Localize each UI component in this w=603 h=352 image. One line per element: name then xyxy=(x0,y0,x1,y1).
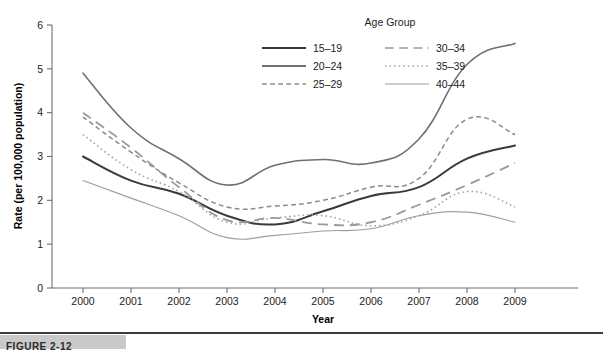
y-tick-label: 1 xyxy=(37,238,43,250)
x-tick-label: 2008 xyxy=(455,295,479,307)
y-tick-label: 6 xyxy=(37,19,43,31)
legend-label-35-39: 35–39 xyxy=(436,60,465,72)
y-tick-label: 0 xyxy=(37,282,43,294)
x-tick-label: 2009 xyxy=(503,295,527,307)
y-tick-label: 5 xyxy=(37,63,43,75)
legend-label-15-19: 15–19 xyxy=(313,42,342,54)
y-axis-title: Rate (per 100,000 population) xyxy=(12,83,24,229)
figure-caption-label: FIGURE 2-12 xyxy=(6,341,72,352)
y-axis: 0123456 xyxy=(37,19,52,294)
x-tick-label: 2004 xyxy=(263,295,287,307)
line-chart: 0123456 20002001200220032004200520062007… xyxy=(0,0,603,330)
y-tick-label: 3 xyxy=(37,150,43,162)
series-line-40-44 xyxy=(83,181,515,240)
legend-label-25-29: 25–29 xyxy=(313,78,342,90)
y-tick-label: 2 xyxy=(37,194,43,206)
legend-label-40-44: 40–44 xyxy=(436,78,465,90)
figure-caption-bar: FIGURE 2-12 xyxy=(0,330,603,349)
series-line-15-19 xyxy=(83,146,515,225)
x-axis-title: Year xyxy=(312,313,334,325)
x-tick-label: 2006 xyxy=(359,295,383,307)
x-tick-label: 2007 xyxy=(407,295,431,307)
x-axis: 2000200120022003200420052006200720082009 xyxy=(52,288,578,307)
legend-label-20-24: 20–24 xyxy=(313,60,342,72)
chart-legend: Age Group15–1920–2425–2930–3435–3940–44 xyxy=(262,16,465,90)
x-tick-label: 2001 xyxy=(119,295,143,307)
x-tick-label: 2002 xyxy=(167,295,191,307)
legend-label-30-34: 30–34 xyxy=(436,42,465,54)
series-line-25-29 xyxy=(83,117,515,209)
caption-rule xyxy=(0,332,603,334)
legend-title: Age Group xyxy=(365,16,416,28)
y-tick-label: 4 xyxy=(37,106,43,118)
series-lines xyxy=(83,43,515,239)
x-tick-label: 2003 xyxy=(215,295,239,307)
x-tick-label: 2005 xyxy=(311,295,335,307)
x-tick-label: 2000 xyxy=(71,295,95,307)
